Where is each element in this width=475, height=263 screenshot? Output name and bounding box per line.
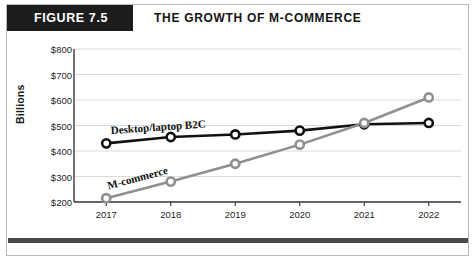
data-point-marker [231, 130, 239, 138]
series-lines [106, 97, 429, 198]
data-point-marker [167, 133, 175, 141]
data-point-marker [425, 119, 433, 127]
data-point-marker [102, 194, 110, 202]
data-point-marker [360, 119, 368, 127]
data-point-marker [167, 178, 175, 186]
data-point-marker [231, 160, 239, 168]
data-point-marker [296, 141, 304, 149]
figure-number-badge: FIGURE 7.5 [7, 5, 133, 31]
plot-svg [6, 32, 469, 232]
series-line [106, 97, 429, 198]
data-point-marker [425, 93, 433, 101]
data-point-marker [296, 127, 304, 135]
figure-title: THE GROWTH OF M-COMMERCE [133, 5, 361, 31]
bottom-rule [8, 238, 468, 243]
data-point-marker [102, 139, 110, 147]
chart-area: Billions $800$700$600$500$400$300$200 20… [6, 32, 469, 232]
figure-root: FIGURE 7.5 THE GROWTH OF M-COMMERCE Bill… [0, 0, 475, 263]
figure-header: FIGURE 7.5 THE GROWTH OF M-COMMERCE [7, 5, 468, 31]
